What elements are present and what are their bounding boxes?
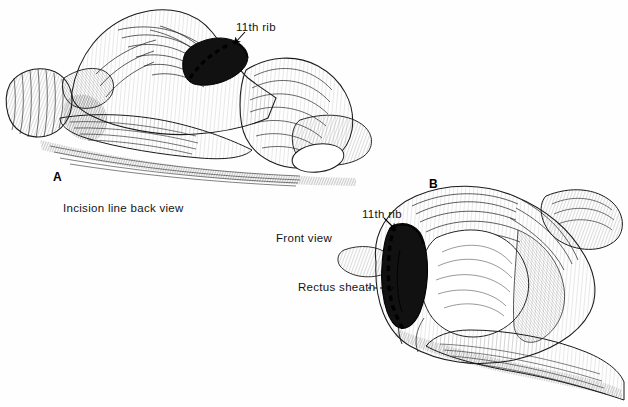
label-11th-rib-panel-b: 11th rib: [362, 208, 402, 220]
label-11th-rib-panel-a: 11th rib: [236, 21, 276, 33]
label-rectus-sheath: Rectus sheath: [298, 281, 375, 293]
abdomen-outline-b: [420, 230, 528, 337]
panel-label-b: B: [429, 177, 438, 191]
caption-front-view: Front view: [276, 232, 332, 244]
caption-incision-line-back-view: Incision line back view: [63, 202, 184, 214]
panel-label-a: A: [53, 170, 62, 184]
